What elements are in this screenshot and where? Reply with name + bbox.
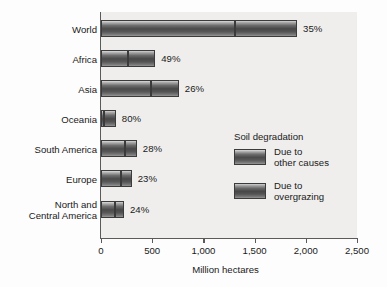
bar-percent-label: 26% xyxy=(185,83,204,94)
bar-segment-other-causes[interactable] xyxy=(101,140,125,157)
x-axis-tick-label: 1,000 xyxy=(191,245,215,256)
bar-segment-overgrazing[interactable] xyxy=(128,50,155,67)
x-axis-tick-label: 1,500 xyxy=(243,245,267,256)
legend-item[interactable]: Due to other causes xyxy=(232,147,352,173)
x-axis-tick xyxy=(152,238,153,243)
bar-percent-label: 80% xyxy=(122,113,141,124)
chart-container: WorldAfricaAsiaOceaniaSouth AmericaEurop… xyxy=(0,0,387,287)
x-axis-tick xyxy=(357,238,358,243)
bar-row[interactable] xyxy=(101,20,297,37)
bar-segment-overgrazing[interactable] xyxy=(104,110,116,127)
legend-swatch-other-causes xyxy=(234,149,266,165)
x-axis-title-text: Million hectares xyxy=(192,264,259,275)
category-label: Asia xyxy=(3,84,97,95)
bar-percent-label: 49% xyxy=(161,53,180,64)
bar-row[interactable] xyxy=(101,50,155,67)
bar-segment-other-causes[interactable] xyxy=(101,201,115,218)
legend: Soil degradation Due to other causesDue … xyxy=(232,131,352,215)
x-axis-tick xyxy=(306,238,307,243)
bar-row[interactable] xyxy=(101,170,132,187)
category-label: Africa xyxy=(3,54,97,65)
bar-row[interactable] xyxy=(101,140,137,157)
category-label: Europe xyxy=(3,174,97,185)
bar-segment-overgrazing[interactable] xyxy=(121,170,132,187)
x-axis-tick-label: 2,000 xyxy=(294,245,318,256)
bar-row[interactable] xyxy=(101,201,124,218)
category-label: South America xyxy=(3,144,97,155)
x-axis-tick xyxy=(255,238,256,243)
category-axis-labels: WorldAfricaAsiaOceaniaSouth AmericaEurop… xyxy=(0,0,97,287)
legend-title: Soil degradation xyxy=(234,131,352,142)
bar-segment-other-causes[interactable] xyxy=(101,50,128,67)
x-axis-line xyxy=(101,238,358,239)
x-axis-tick xyxy=(101,238,102,243)
legend-item[interactable]: Due to overgrazing xyxy=(232,181,352,207)
bar-percent-label: 28% xyxy=(143,143,162,154)
bar-segment-overgrazing[interactable] xyxy=(151,80,179,97)
x-axis-tick-label: 500 xyxy=(144,245,160,256)
x-axis-tick xyxy=(203,238,204,243)
bar-row[interactable] xyxy=(101,80,179,97)
legend-items: Due to other causesDue to overgrazing xyxy=(232,147,352,207)
bar-segment-other-causes[interactable] xyxy=(101,170,121,187)
x-axis-tick-label: 2,500 xyxy=(345,245,369,256)
bar-segment-other-causes[interactable] xyxy=(101,80,151,97)
category-label: World xyxy=(3,24,97,35)
bar-row[interactable] xyxy=(101,110,116,127)
bar-percent-label: 24% xyxy=(130,204,149,215)
bar-segment-overgrazing[interactable] xyxy=(125,140,137,157)
category-label: Oceania xyxy=(3,114,97,125)
bar-percent-label: 23% xyxy=(138,173,157,184)
bar-segment-overgrazing[interactable] xyxy=(115,201,124,218)
x-axis-title: Million hectares xyxy=(0,264,387,275)
legend-swatch-overgrazing xyxy=(234,183,266,199)
bar-percent-label: 35% xyxy=(303,23,322,34)
x-axis-tick-label: 0 xyxy=(98,245,103,256)
category-label: North and Central America xyxy=(3,199,97,221)
legend-label: Due to overgrazing xyxy=(274,180,324,202)
bar-segment-other-causes[interactable] xyxy=(101,20,235,37)
bar-segment-overgrazing[interactable] xyxy=(235,20,297,37)
legend-label: Due to other causes xyxy=(274,146,329,168)
